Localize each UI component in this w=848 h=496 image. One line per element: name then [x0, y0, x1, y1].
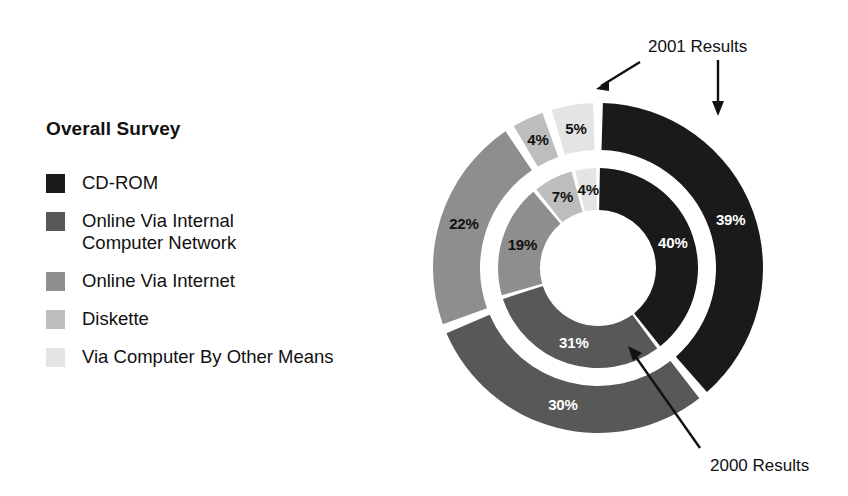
- legend-item-online-internal[interactable]: Online Via Internal Computer Network: [46, 210, 376, 254]
- legend-swatch-cd-rom: [46, 174, 65, 193]
- callout-2001-results: 2001 Results: [596, 37, 747, 116]
- donut-segment-outer-2[interactable]: [433, 131, 532, 324]
- donut-segment-inner-2[interactable]: [498, 192, 560, 296]
- legend-item-other-means[interactable]: Via Computer By Other Means: [46, 346, 376, 368]
- legend-item-label: Via Computer By Other Means: [82, 346, 334, 368]
- segment-value-label: 4%: [527, 131, 548, 148]
- legend-swatch-online-internet: [46, 272, 65, 291]
- donut-segment-inner-4[interactable]: [575, 168, 597, 212]
- segment-value-label: 31%: [559, 334, 588, 351]
- value-label-group: 39%30%22%4%5%40%31%19%7%4%: [449, 120, 745, 413]
- donut-segment-outer-0[interactable]: [602, 103, 763, 392]
- legend-swatch-diskette: [46, 310, 65, 329]
- donut-segment-outer-3[interactable]: [514, 113, 558, 167]
- legend-item-label: Online Via Internal Computer Network: [82, 210, 236, 254]
- callout-2000-label: 2000 Results: [710, 456, 809, 475]
- callout-2001-vertical-arrowhead: [712, 101, 724, 116]
- segment-value-label: 22%: [449, 215, 478, 232]
- callout-2000-line: [633, 353, 700, 448]
- legend-item-cd-rom[interactable]: CD-ROM: [46, 172, 376, 194]
- callout-2001-diagonal-line: [601, 62, 640, 86]
- callout-2000-arrowhead: [628, 346, 642, 361]
- legend: Overall Survey CD-ROMOnline Via Internal…: [46, 118, 376, 384]
- legend-item-label: CD-ROM: [82, 172, 158, 194]
- legend-item-online-internet[interactable]: Online Via Internet: [46, 270, 376, 292]
- legend-item-list: CD-ROMOnline Via Internal Computer Netwo…: [46, 172, 376, 368]
- segment-value-label: 4%: [578, 181, 599, 198]
- callout-2001-diagonal-arrowhead: [596, 80, 609, 91]
- legend-swatch-other-means: [46, 348, 65, 367]
- segment-value-label: 30%: [548, 396, 577, 413]
- legend-item-diskette[interactable]: Diskette: [46, 308, 376, 330]
- donut-segment-outer-4[interactable]: [552, 103, 595, 155]
- segment-value-label: 5%: [565, 120, 586, 137]
- callout-2001-label: 2001 Results: [648, 37, 747, 56]
- donut-segment-inner-0[interactable]: [599, 168, 698, 346]
- outer-ring-2001: [433, 103, 763, 433]
- donut-segment-inner-1[interactable]: [503, 286, 657, 368]
- segment-value-label: 7%: [552, 188, 573, 205]
- donut-segment-inner-3[interactable]: [536, 172, 582, 223]
- segment-value-label: 40%: [658, 234, 687, 251]
- legend-swatch-online-internal: [46, 212, 65, 231]
- donut-segment-outer-1[interactable]: [446, 315, 699, 433]
- segment-value-label: 39%: [716, 211, 745, 228]
- segment-value-label: 19%: [508, 236, 537, 253]
- page-title: Overall Survey: [46, 118, 376, 140]
- chart-page: Overall Survey CD-ROMOnline Via Internal…: [0, 0, 848, 496]
- inner-ring-2000: [498, 168, 698, 368]
- legend-item-label: Online Via Internet: [82, 270, 235, 292]
- callout-2000-results: 2000 Results: [628, 346, 809, 475]
- legend-item-label: Diskette: [82, 308, 149, 330]
